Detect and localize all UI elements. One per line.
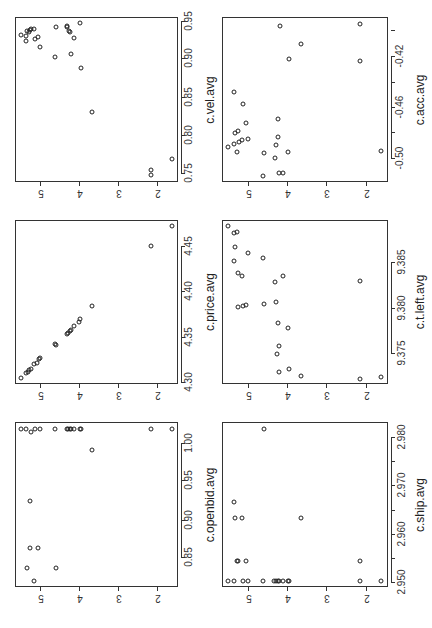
data-point [261,256,266,261]
data-point [54,566,59,571]
y-tick-label: 4 [77,593,83,603]
data-point [379,149,384,154]
x-axis-title: c.t.left.avg [413,275,427,330]
y-tick-label: 4 [77,188,83,198]
data-point [244,121,249,126]
y-tick [40,384,41,388]
x-tick [391,308,395,309]
y-tick [79,587,80,591]
data-point [25,566,30,571]
y-tick-label: 3 [324,593,330,603]
data-point [72,324,77,329]
x-axis-line [181,246,182,382]
y-tick-label: 5 [246,390,252,400]
x-tick-label: 0.90 [184,48,194,67]
y-tick-label: 2 [155,390,161,400]
y-tick [366,182,367,186]
data-point [287,367,292,372]
y-tick-label: 4 [285,593,291,603]
data-point [379,375,384,380]
y-tick [79,384,80,388]
data-point [240,516,245,521]
x-axis-title: c.ship.avg [413,477,427,531]
data-point [232,259,237,264]
data-point [29,367,34,372]
data-point [78,317,83,322]
plot-frame-openbid [15,422,178,587]
x-tick-label: -0.42 [395,45,405,68]
data-point [79,66,84,71]
data-point [274,143,279,148]
data-point [79,427,84,432]
x-tick-label: 2.950 [397,569,407,594]
y-tick [287,384,288,388]
data-point [236,559,241,564]
x-tick [391,485,395,486]
data-point [24,39,29,44]
data-point [277,370,282,375]
y-tick-label: 3 [324,188,330,198]
x-axis-line [181,443,182,557]
y-tick [40,587,41,591]
data-point [274,300,279,305]
x-tick-label: 4.35 [184,327,194,346]
data-point [170,157,175,162]
y-tick [157,587,158,591]
x-tick [391,353,395,354]
y-tick-label: 2 [155,188,161,198]
x-tick-label: -0.46 [395,96,405,119]
data-point [235,230,240,235]
data-point [72,36,77,41]
data-point [170,427,175,432]
data-point [226,145,231,150]
x-tick [391,437,395,438]
data-point [72,427,77,432]
data-point [262,427,267,432]
data-point [38,45,43,50]
data-point [226,224,231,229]
data-point [36,546,41,551]
data-point [232,579,237,584]
x-axis-title: c.price.avg [203,273,217,331]
data-point [379,579,384,584]
data-point [358,559,363,564]
plot-frame-acc [222,17,388,182]
data-point [90,448,95,453]
y-tick-label: 3 [116,188,122,198]
y-tick-label: 5 [38,188,44,198]
y-tick [157,384,158,388]
x-tick-label: 2.960 [397,521,407,546]
y-tick [326,587,327,591]
y-tick-label: 5 [38,593,44,603]
x-minor-tick [391,558,395,559]
x-tick-label: 0.90 [184,510,194,529]
x-tick-label: 0.85 [184,547,194,566]
y-tick [248,587,249,591]
data-point [262,151,267,156]
y-tick-label: 5 [246,593,252,603]
data-point [358,22,363,27]
y-tick-label: 2 [364,188,370,198]
data-point [235,150,240,155]
data-point [273,156,278,161]
x-tick-label: 0.80 [184,125,194,144]
data-point [276,117,281,122]
data-point [244,559,249,564]
data-point [90,110,95,115]
y-tick [326,182,327,186]
data-point [281,274,286,279]
data-point [78,21,83,26]
data-point [53,427,58,432]
data-point [233,516,238,521]
data-point [287,57,292,62]
data-point [54,25,59,30]
data-point [32,27,37,32]
y-tick-label: 3 [324,390,330,400]
x-axis-title: c.vel.avg [203,76,217,123]
x-tick-label: 0.75 [184,163,194,182]
data-point [232,90,237,95]
data-point [246,251,251,256]
data-point [358,59,363,64]
x-minor-tick [391,132,395,133]
x-tick-label: 0.85 [184,87,194,106]
